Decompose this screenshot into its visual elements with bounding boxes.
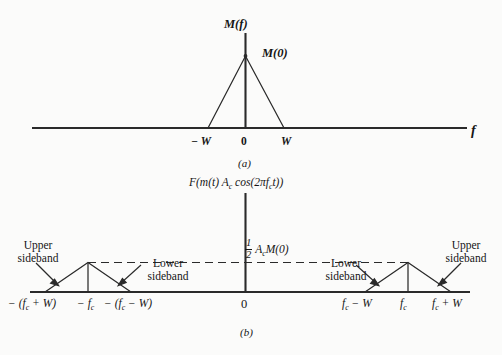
annotation-line-1: Lower	[331, 257, 361, 269]
panel-b-signal-label: F(m(t) Ac cos(2πfct))	[189, 177, 283, 191]
panel-b-tick-neg-fc: − fc	[77, 298, 94, 312]
annotation-lower-sideband-left: Lower sideband	[132, 257, 204, 283]
panel-a-peak-label: M(0)	[262, 47, 288, 60]
annotation-upper-sideband-right: Upper sideband	[434, 239, 498, 265]
panel-a-signal-label: M(f)	[224, 18, 248, 31]
annotation-line-2: sideband	[326, 270, 367, 282]
amplitude-modulation-spectrum-figure: M(f) M(0) − W 0 W f (a) F(m(t) Ac cos(2π…	[0, 0, 502, 355]
panel-b-amplitude-label: 1 2 AcM(0)	[245, 238, 289, 260]
panel-a-caption: (a)	[238, 158, 251, 169]
amplitude-fraction-numerator: 1	[245, 238, 252, 249]
annotation-line-2: sideband	[446, 252, 487, 264]
annotation-upper-sideband-left: Upper sideband	[6, 239, 70, 265]
panel-a-peak-marker	[244, 54, 248, 58]
panel-b-tick-neg-fc-plus-w: − (fc + W)	[8, 298, 56, 312]
annotation-line-2: sideband	[18, 252, 59, 264]
arrow-upper-sideband-left	[36, 263, 59, 286]
amplitude-fraction: 1 2	[245, 238, 252, 260]
annotation-line-2: sideband	[148, 270, 189, 282]
panel-a-frequency-axis-label: f	[471, 124, 476, 138]
annotation-line-1: Lower	[153, 257, 183, 269]
panel-b-tick-fc: fc	[400, 298, 407, 312]
panel-b-tick-fc-plus-w: fc + W	[432, 298, 462, 312]
panel-a-graph	[32, 33, 467, 128]
tick-subscript-c: c	[91, 303, 94, 312]
annotation-line-1: Upper	[24, 239, 53, 251]
panel-b-tick-fc-minus-w: fc − W	[342, 298, 372, 312]
panel-a-tick-negative-w: − W	[191, 136, 211, 148]
panel-b-tick-zero: 0	[241, 298, 247, 311]
arrow-upper-sideband-right	[438, 263, 461, 286]
panel-a-tick-positive-w: W	[281, 136, 291, 148]
panel-a-tick-zero: 0	[241, 136, 247, 148]
annotation-line-1: Upper	[452, 239, 481, 251]
amplitude-fraction-denominator: 2	[245, 249, 252, 261]
panel-b-caption: (b)	[240, 327, 253, 338]
panel-b-tick-neg-fc-minus-w: − (fc − W)	[104, 298, 152, 312]
tick-subscript-c: c	[403, 303, 406, 312]
annotation-lower-sideband-right: Lower sideband	[310, 257, 382, 283]
